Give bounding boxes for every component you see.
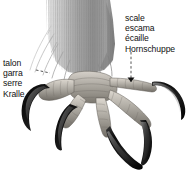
bird-foot-figure: scale escama écaille Hornschuppe talon g… (0, 0, 190, 183)
claw-label-line-fr2: serre (3, 78, 24, 88)
scale-label-line-es: escama (125, 23, 175, 33)
scale-label-line-de: Hornschuppe (125, 44, 175, 54)
toe-front-left (39, 79, 74, 100)
claw-label: talon garra serre Kralle (3, 58, 24, 99)
scale-label: scale escama écaille Hornschuppe (125, 13, 175, 54)
feathered-leg (30, 0, 120, 82)
leader-line-claw (36, 70, 50, 73)
leader-line-scale (128, 52, 135, 82)
scale-label-line-fr: écaille (125, 33, 175, 43)
scale-label-line-en: scale (125, 13, 175, 23)
claw-label-line-es: garra (3, 68, 24, 78)
claw-center-right (106, 126, 143, 170)
claw-right (152, 82, 185, 120)
claw-label-line-de: Kralle (3, 89, 24, 99)
claw-label-line-fr: talon (3, 58, 24, 68)
